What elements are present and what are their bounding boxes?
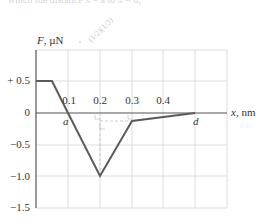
x-axis-label: x, nm (230, 106, 256, 118)
y-tick-neg1.0: −1.0 (10, 170, 30, 182)
point-label-d: d (193, 115, 199, 127)
y-tick-0: 0 (25, 106, 31, 118)
force-vs-distance-chart: (1/2)(1/3) F, µN + 0.5 0 −0.5 −1.0 −1.5 … (0, 0, 261, 221)
x-tick-0.1: 0.1 (62, 94, 76, 106)
pencil-dot (79, 41, 81, 43)
x-tick-0.4: 0.4 (156, 94, 170, 106)
y-tick-0.5: + 0.5 (7, 74, 30, 86)
handwritten-annotation: (1/2)(1/3) (87, 15, 116, 44)
point-label-a: a (63, 115, 69, 127)
x-tick-0.2: 0.2 (93, 94, 107, 106)
y-tick-neg0.5: −0.5 (10, 138, 30, 150)
grid (36, 50, 227, 208)
x-tick-0.3: 0.3 (125, 94, 139, 106)
y-tick-neg1.5: −1.5 (10, 201, 30, 213)
force-curve (36, 81, 195, 176)
y-axis-label: F, µN (36, 34, 64, 46)
